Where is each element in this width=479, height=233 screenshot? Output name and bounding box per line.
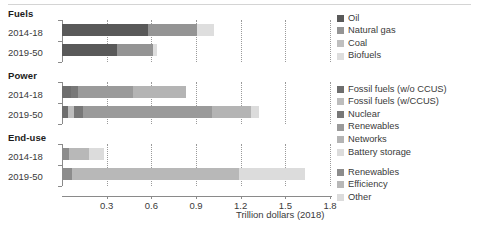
gridline [330,20,331,62]
legend-item[interactable]: Renewables [337,166,399,179]
legend-swatch-icon [337,124,344,131]
legend-item[interactable]: Oil [337,12,396,25]
legend-enduse: RenewablesEfficiencyOther [337,166,399,204]
legend-swatch-icon [337,181,344,188]
axis-cap [58,62,62,63]
bar-segment-oil [62,24,148,36]
bar-segment-battery-storage [251,106,258,118]
legend-label: Renewables [348,122,399,131]
bar-segment-networks [212,106,251,118]
bar-end-use-2014-18 [62,148,330,160]
bar-segment-oil [62,44,117,56]
panel-title-power: Power [8,70,37,81]
legend-swatch-icon [337,27,344,34]
legend-swatch-icon [337,98,344,105]
x-axis-tick [107,196,108,199]
row-label-power-2014-18: 2014-18 [8,89,60,100]
axis-cap [58,186,62,187]
bar-segment-other [239,168,305,180]
panel-title-fuels: Fuels [8,8,33,19]
gridline [330,82,331,124]
legend-power: Fossil fuels (w/o CCUS)Fossil fuels (w/C… [337,83,447,159]
legend-label: Battery storage [348,148,411,157]
x-axis [62,196,332,197]
bar-segment-biofuels [153,44,157,56]
legend-swatch-icon [337,149,344,156]
row-label-fuels-2019-50: 2019-50 [8,47,60,58]
x-axis-tick-label: 0.9 [181,200,211,211]
legend-swatch-icon [337,136,344,143]
bar-segment-other [89,148,104,160]
legend-label: Fossil fuels (w/o CCUS) [348,85,447,94]
legend-item[interactable]: Battery storage [337,146,447,159]
axis-cap [58,124,62,125]
x-axis-tick [285,196,286,199]
legend-label: Networks [348,135,387,144]
bar-segment-efficiency [72,168,239,180]
legend-swatch-icon [337,111,344,118]
bar-segment-networks [133,86,185,98]
bar-segment-efficiency [69,148,88,160]
legend-swatch-icon [337,40,344,47]
legend-item[interactable]: Other [337,191,399,204]
legend-swatch-icon [337,15,344,22]
legend-swatch-icon [337,86,344,93]
bar-segment-natural-gas [117,44,153,56]
legend-label: Efficiency [348,180,388,189]
legend-label: Natural gas [348,26,396,35]
legend-swatch-icon [337,53,344,60]
axis-cap [58,20,62,21]
legend-item[interactable]: Fossil fuels (w/CCUS) [337,96,447,109]
x-axis-tick [196,196,197,199]
x-axis-tick [330,196,331,199]
legend-item[interactable]: Coal [337,37,396,50]
bar-segment-renewables [83,106,213,118]
row-label-enduse-2014-18: 2014-18 [8,151,60,162]
legend-swatch-icon [337,169,344,176]
row-label-power-2019-50: 2019-50 [8,109,60,120]
axis-title: Trillion dollars (2018) [236,209,324,220]
x-axis-tick-label: 0.3 [92,200,122,211]
legend-item[interactable]: Renewables [337,121,447,134]
legend-label: Biofuels [348,51,381,60]
legend-swatch-icon [337,194,344,201]
x-axis-tick-label: 0.6 [136,200,166,211]
bar-segment-renewables [62,168,72,180]
bar-segment-renewables [78,86,133,98]
axis-cap [58,82,62,83]
x-axis-tick [151,196,152,199]
row-label-fuels-2014-18: 2014-18 [8,27,60,38]
x-axis-tick [241,196,242,199]
axis-cap [58,41,62,42]
bar-power-2019-50 [62,106,330,118]
legend-item[interactable]: Biofuels [337,50,396,63]
bar-segment-nuclear [71,86,78,98]
row-label-enduse-2019-50: 2019-50 [8,171,60,182]
axis-cap [58,103,62,104]
bar-fuels-2014-18 [62,24,330,36]
legend-label: Renewables [348,168,399,177]
legend-label: Fossil fuels (w/CCUS) [348,97,439,106]
bar-segment-renewables [62,148,69,160]
bar-fuels-2019-50 [62,44,330,56]
legend-fuels: OilNatural gasCoalBiofuels [337,12,396,62]
legend-label: Other [348,193,371,202]
bar-segment-nuclear [74,106,83,118]
bar-segment-fossil-fuels-w-o-ccus [62,86,71,98]
axis-cap [58,165,62,166]
gridline [330,144,331,186]
legend-item[interactable]: Nuclear [337,108,447,121]
legend-label: Nuclear [348,110,380,119]
bar-power-2014-18 [62,86,330,98]
bar-segment-biofuels [197,24,213,36]
legend-item[interactable]: Fossil fuels (w/o CCUS) [337,83,447,96]
bar-end-use-2019-50 [62,168,330,180]
panel-title-enduse: End-use [8,132,46,143]
legend-item[interactable]: Networks [337,133,447,146]
legend-label: Oil [348,14,359,23]
legend-label: Coal [348,39,367,48]
bar-segment-natural-gas [148,24,197,36]
axis-cap [58,144,62,145]
legend-item[interactable]: Natural gas [337,25,396,38]
legend-item[interactable]: Efficiency [337,179,399,192]
